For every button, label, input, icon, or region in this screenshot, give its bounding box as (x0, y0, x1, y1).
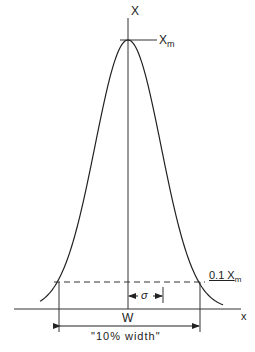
peak-label-main: X (159, 33, 167, 47)
gaussian-curve (40, 40, 223, 305)
sigma-label: σ (141, 290, 148, 301)
width-label: W (122, 312, 133, 324)
peak-label-sub: m (167, 39, 175, 49)
peak-label: Xm (159, 34, 175, 49)
threshold-label-main: 0.1 X (209, 269, 235, 281)
threshold-label: 0.1 Xm (209, 270, 241, 284)
y-axis-label: X (131, 5, 139, 17)
gaussian-diagram (0, 0, 255, 352)
x-axis-label: x (241, 311, 247, 322)
threshold-label-sub: m (235, 275, 242, 284)
width-caption: "10% width" (91, 331, 161, 342)
